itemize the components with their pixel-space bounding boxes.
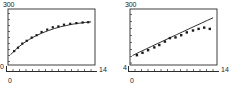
data-points-right [136, 26, 211, 56]
plot-frame-left [8, 9, 95, 65]
plot-area-left [0, 0, 122, 95]
figure-pair: 300 0 0 14 [0, 0, 244, 95]
fit-curve-right [133, 18, 214, 56]
chart-panel-left: 300 0 0 14 [0, 0, 122, 95]
fit-curve-left [11, 22, 92, 55]
plot-area-right [122, 0, 244, 95]
data-points-left [13, 21, 89, 52]
plot-frame-right [130, 9, 217, 65]
chart-panel-right: 300 4 0 14 [122, 0, 244, 95]
